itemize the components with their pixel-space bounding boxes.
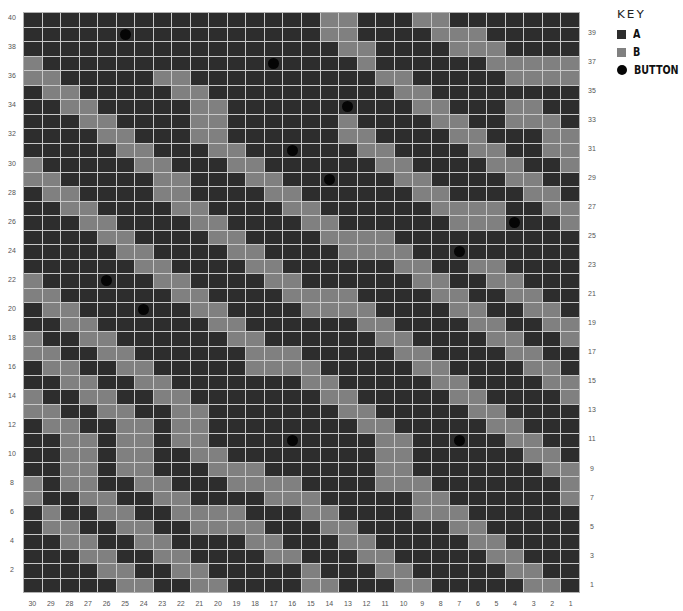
board-cell[interactable] (358, 289, 376, 303)
board-cell[interactable] (524, 521, 542, 535)
board-cell[interactable] (80, 158, 98, 172)
board-cell[interactable] (43, 231, 61, 245)
board-cell[interactable] (117, 506, 135, 520)
board-cell[interactable] (80, 216, 98, 230)
board-cell[interactable] (43, 492, 61, 506)
board-cell[interactable] (80, 57, 98, 71)
board-cell[interactable] (376, 245, 394, 259)
board-cell[interactable] (172, 332, 190, 346)
board-cell[interactable] (395, 115, 413, 129)
board-cell[interactable] (524, 361, 542, 375)
board-cell[interactable] (191, 347, 209, 361)
board-cell[interactable] (283, 216, 301, 230)
board-cell[interactable] (228, 535, 246, 549)
board-cell[interactable] (172, 100, 190, 114)
board-cell[interactable] (339, 187, 357, 201)
board-cell[interactable] (191, 289, 209, 303)
board-cell[interactable] (487, 100, 505, 114)
board-cell[interactable] (246, 376, 264, 390)
board-cell[interactable] (432, 376, 450, 390)
board-cell[interactable] (561, 129, 579, 143)
board-cell[interactable] (283, 245, 301, 259)
board-cell[interactable] (543, 303, 561, 317)
board-cell[interactable] (506, 477, 524, 491)
board-cell[interactable] (506, 376, 524, 390)
board-cell[interactable] (209, 274, 227, 288)
board-cell[interactable] (413, 506, 431, 520)
board-cell[interactable] (432, 506, 450, 520)
board-cell[interactable] (487, 521, 505, 535)
board-cell[interactable] (450, 274, 468, 288)
board-cell[interactable] (135, 434, 153, 448)
board-cell[interactable] (209, 419, 227, 433)
board-cell[interactable] (543, 535, 561, 549)
board-cell[interactable] (43, 86, 61, 100)
board-cell[interactable] (98, 187, 116, 201)
board-cell[interactable] (358, 347, 376, 361)
board-cell[interactable] (358, 187, 376, 201)
board-cell[interactable] (561, 405, 579, 419)
board-cell[interactable] (135, 405, 153, 419)
board-cell[interactable] (135, 521, 153, 535)
board-cell[interactable] (117, 390, 135, 404)
board-cell[interactable] (265, 376, 283, 390)
board-cell[interactable] (154, 13, 172, 27)
board-cell[interactable] (487, 245, 505, 259)
board-cell[interactable] (487, 361, 505, 375)
board-cell[interactable] (246, 448, 264, 462)
board-cell[interactable] (172, 202, 190, 216)
board-cell[interactable] (228, 390, 246, 404)
board-cell[interactable] (395, 173, 413, 187)
board-cell[interactable] (302, 434, 320, 448)
board-cell[interactable] (43, 361, 61, 375)
board-cell[interactable] (43, 390, 61, 404)
board-cell[interactable] (228, 347, 246, 361)
board-cell[interactable] (117, 318, 135, 332)
board-cell[interactable] (376, 13, 394, 27)
board-cell[interactable] (321, 347, 339, 361)
board-cell[interactable] (265, 245, 283, 259)
board-cell[interactable] (506, 202, 524, 216)
board-cell[interactable] (450, 115, 468, 129)
board-cell[interactable] (135, 477, 153, 491)
board-cell[interactable] (339, 129, 357, 143)
board-cell[interactable] (321, 202, 339, 216)
board-cell[interactable] (172, 303, 190, 317)
board-cell[interactable] (246, 274, 264, 288)
board-cell[interactable] (98, 419, 116, 433)
board-cell[interactable] (506, 550, 524, 564)
board-cell[interactable] (135, 347, 153, 361)
board-cell[interactable] (376, 274, 394, 288)
board-cell[interactable] (228, 231, 246, 245)
board-cell[interactable] (487, 13, 505, 27)
board-cell[interactable] (506, 129, 524, 143)
board-cell[interactable] (265, 564, 283, 578)
board-cell[interactable] (506, 434, 524, 448)
board-cell[interactable] (395, 477, 413, 491)
board-cell[interactable] (24, 521, 42, 535)
board-cell[interactable] (561, 579, 579, 593)
board-cell[interactable] (506, 448, 524, 462)
board-cell[interactable] (395, 100, 413, 114)
board-cell[interactable] (172, 477, 190, 491)
board-cell[interactable] (43, 376, 61, 390)
board-cell[interactable] (321, 419, 339, 433)
board-cell[interactable] (172, 260, 190, 274)
board-cell[interactable] (376, 100, 394, 114)
board-cell[interactable] (561, 158, 579, 172)
board-cell[interactable] (321, 535, 339, 549)
board-cell[interactable] (43, 318, 61, 332)
board-cell[interactable] (302, 13, 320, 27)
board-cell[interactable] (228, 245, 246, 259)
board-cell[interactable] (358, 361, 376, 375)
board-cell[interactable] (24, 434, 42, 448)
board-cell[interactable] (487, 477, 505, 491)
board-cell[interactable] (358, 274, 376, 288)
board-cell[interactable] (246, 71, 264, 85)
board-cell[interactable] (321, 28, 339, 42)
board-cell[interactable] (487, 202, 505, 216)
board-cell[interactable] (487, 42, 505, 56)
board-cell[interactable] (358, 390, 376, 404)
board-cell[interactable] (506, 564, 524, 578)
board-cell[interactable] (117, 231, 135, 245)
